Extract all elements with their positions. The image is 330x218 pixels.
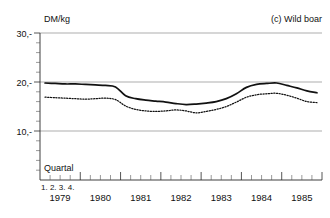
- chart-svg: DM/kg (c) Wild boar: [0, 0, 330, 218]
- x-year-label-1979: 1979: [50, 192, 71, 203]
- x-year-label-1985: 1985: [291, 192, 312, 203]
- quarter-markers-label: 1. 2. 3. 4.: [41, 183, 74, 192]
- series-line-dotted: [45, 93, 317, 113]
- chart-panel: DM/kg (c) Wild boar: [0, 0, 330, 218]
- y-tick-label-10: 10,-: [16, 127, 32, 137]
- x-year-label-1980: 1980: [90, 192, 111, 203]
- y-axis-unit-label: DM/kg: [44, 14, 70, 24]
- y-axis-minor-ticks: [36, 43, 40, 170]
- y-tick-label-30: 30,-: [16, 29, 32, 39]
- x-axis-label: Quartal: [44, 163, 74, 173]
- y-axis-major-ticks: [34, 33, 40, 131]
- panel-title: (c) Wild boar: [271, 14, 322, 24]
- x-axis-quarter-ticks: [50, 172, 322, 180]
- x-year-label-1982: 1982: [170, 192, 191, 203]
- x-year-label-1983: 1983: [211, 192, 232, 203]
- y-tick-label-20: 20,-: [16, 78, 32, 88]
- x-year-label-1984: 1984: [251, 192, 272, 203]
- gridlines: [40, 33, 322, 131]
- x-year-label-1981: 1981: [130, 192, 151, 203]
